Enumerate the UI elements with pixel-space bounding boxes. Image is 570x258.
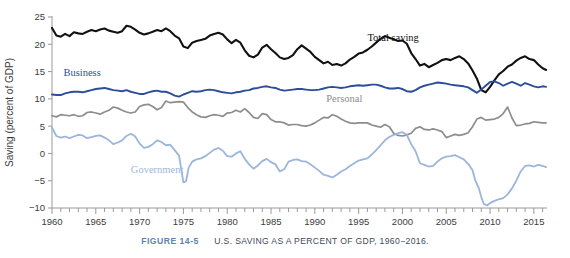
x-tick-label: 1970 xyxy=(129,216,150,227)
y-tick-label: 5 xyxy=(40,121,45,132)
x-tick-label: 1990 xyxy=(304,216,325,227)
y-axis: 2520151050−5−10 xyxy=(29,11,52,213)
x-tick-label: 1975 xyxy=(173,216,194,227)
series-line-business xyxy=(52,81,546,96)
figure-caption: FIGURE 14-5 U.S. SAVING AS A PERCENT OF … xyxy=(0,236,570,246)
y-axis-title: Saving (percent of GDP) xyxy=(4,58,15,167)
figure-caption-text: U.S. SAVING AS A PERCENT OF GDP, 1960−20… xyxy=(214,236,428,246)
x-tick-label: 2010 xyxy=(479,216,500,227)
saving-line-chart: 2520151050−5−10 196019651970197519801985… xyxy=(0,0,570,232)
y-tick-label: 0 xyxy=(40,148,45,159)
figure-number: FIGURE 14-5 xyxy=(141,236,199,246)
x-tick-label: 2000 xyxy=(392,216,413,227)
y-tick-label: 20 xyxy=(34,39,45,50)
y-axis-title-text: Saving (percent of GDP) xyxy=(4,58,15,167)
annotation-total-saving: Total saving xyxy=(367,32,419,43)
x-tick-label: 1960 xyxy=(41,216,62,227)
y-tick-label: 25 xyxy=(34,11,45,22)
x-axis: 1960196519701975198019851990199520002005… xyxy=(41,208,547,227)
chart-plot-area: 2520151050−5−10 196019651970197519801985… xyxy=(0,0,570,232)
annotation-business: Business xyxy=(63,67,100,78)
x-tick-label: 1995 xyxy=(348,216,369,227)
y-tick-label: −5 xyxy=(34,175,45,186)
series-line-personal xyxy=(52,101,546,138)
annotation-personal: Personal xyxy=(326,93,362,104)
x-tick-label: 1980 xyxy=(217,216,238,227)
x-tick-label: 1985 xyxy=(260,216,281,227)
x-tick-label: 2015 xyxy=(523,216,544,227)
series-line-government xyxy=(52,128,546,205)
y-tick-label: 15 xyxy=(34,66,45,77)
y-tick-label: 10 xyxy=(34,93,45,104)
figure-container: 2520151050−5−10 196019651970197519801985… xyxy=(0,0,570,258)
data-series-group xyxy=(52,26,546,206)
annotation-government: Government xyxy=(131,164,184,175)
y-tick-label: −10 xyxy=(29,202,45,213)
x-tick-label: 1965 xyxy=(85,216,106,227)
x-tick-label: 2005 xyxy=(436,216,457,227)
series-line-total-saving xyxy=(52,26,546,93)
